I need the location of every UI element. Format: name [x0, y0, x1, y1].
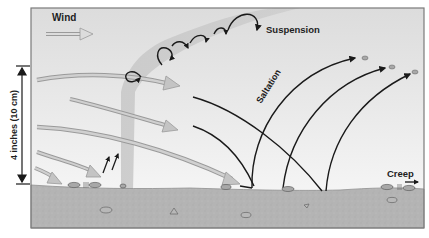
suspension-label: Suspension: [266, 24, 320, 35]
wind-transport-diagram: Wind: [0, 0, 429, 238]
height-label: 4 inches (10 cm): [9, 90, 19, 160]
ground-surface: [31, 185, 424, 228]
creep-label: Creep: [387, 168, 414, 179]
wind-label: Wind: [52, 12, 76, 23]
